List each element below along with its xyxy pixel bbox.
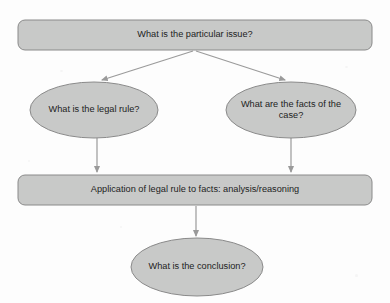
node-facts-shape[interactable] [226, 82, 356, 138]
flowchart-canvas [0, 0, 390, 303]
node-rule-shape[interactable] [30, 82, 158, 138]
edge-issue-to-rule [102, 51, 193, 80]
node-application-shape[interactable] [18, 175, 372, 205]
flowchart-diagram: What is the particular issue? What is th… [0, 0, 390, 303]
node-issue-shape[interactable] [18, 20, 372, 50]
edge-issue-to-facts [196, 51, 285, 80]
node-group [18, 20, 372, 296]
node-conclusion-shape[interactable] [131, 238, 263, 296]
edge-group [97, 51, 291, 236]
